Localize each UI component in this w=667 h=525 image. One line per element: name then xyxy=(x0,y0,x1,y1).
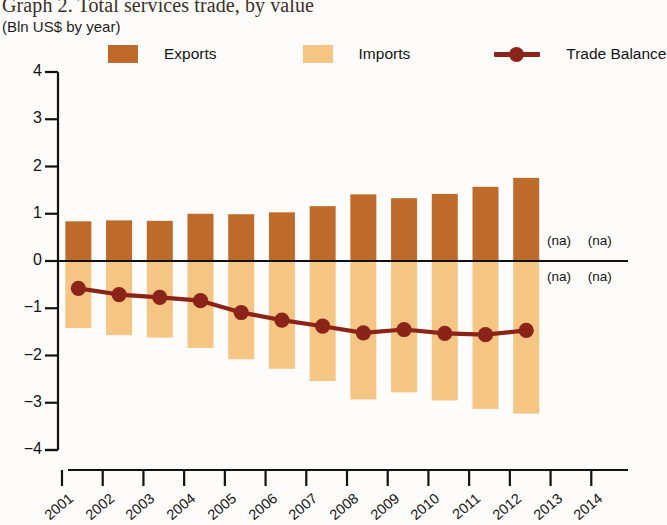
exports-bar xyxy=(65,221,91,261)
y-axis-tick-label: −2 xyxy=(16,346,42,364)
y-axis-tick-label: −1 xyxy=(16,298,42,316)
trade-balance-point xyxy=(152,290,167,305)
exports-bar xyxy=(391,198,417,261)
exports-bar xyxy=(513,178,539,261)
trade-balance-point xyxy=(396,322,411,337)
trade-balance-point xyxy=(193,293,208,308)
trade-balance-point xyxy=(519,323,534,338)
na-annotation: (na) xyxy=(547,233,571,248)
exports-bar xyxy=(269,212,295,261)
trade-balance-point xyxy=(315,319,330,334)
trade-balance-point xyxy=(437,326,452,341)
na-annotation: (na) xyxy=(588,233,612,248)
exports-bar xyxy=(473,187,499,261)
exports-bar-group xyxy=(65,178,539,261)
y-axis-tick-label: 1 xyxy=(16,204,42,222)
exports-bar xyxy=(350,194,376,261)
trade-balance-polyline xyxy=(78,288,526,334)
na-annotation: (na) xyxy=(547,269,571,284)
exports-bar xyxy=(147,221,173,261)
na-annotation: (na) xyxy=(588,269,612,284)
exports-bar xyxy=(310,206,336,261)
trade-balance-point xyxy=(234,305,249,320)
trade-balance-point xyxy=(111,287,126,302)
trade-balance-point xyxy=(71,281,86,296)
trade-balance-line-group xyxy=(71,281,534,343)
exports-bar xyxy=(228,214,254,261)
axes-group xyxy=(45,72,628,486)
y-axis-tick-label: 3 xyxy=(16,109,42,127)
exports-bar xyxy=(106,220,132,261)
y-axis-tick-label: 4 xyxy=(16,62,42,80)
trade-balance-point xyxy=(356,325,371,340)
exports-bar xyxy=(432,194,458,261)
imports-bar-group xyxy=(65,261,539,414)
y-axis-tick-label: 0 xyxy=(16,251,42,269)
y-axis-tick-label: −3 xyxy=(16,393,42,411)
y-axis-tick-label: 2 xyxy=(16,157,42,175)
y-axis-tick-label: −4 xyxy=(16,440,42,458)
trade-balance-point xyxy=(478,327,493,342)
trade-balance-point xyxy=(274,312,289,327)
exports-bar xyxy=(188,214,214,261)
